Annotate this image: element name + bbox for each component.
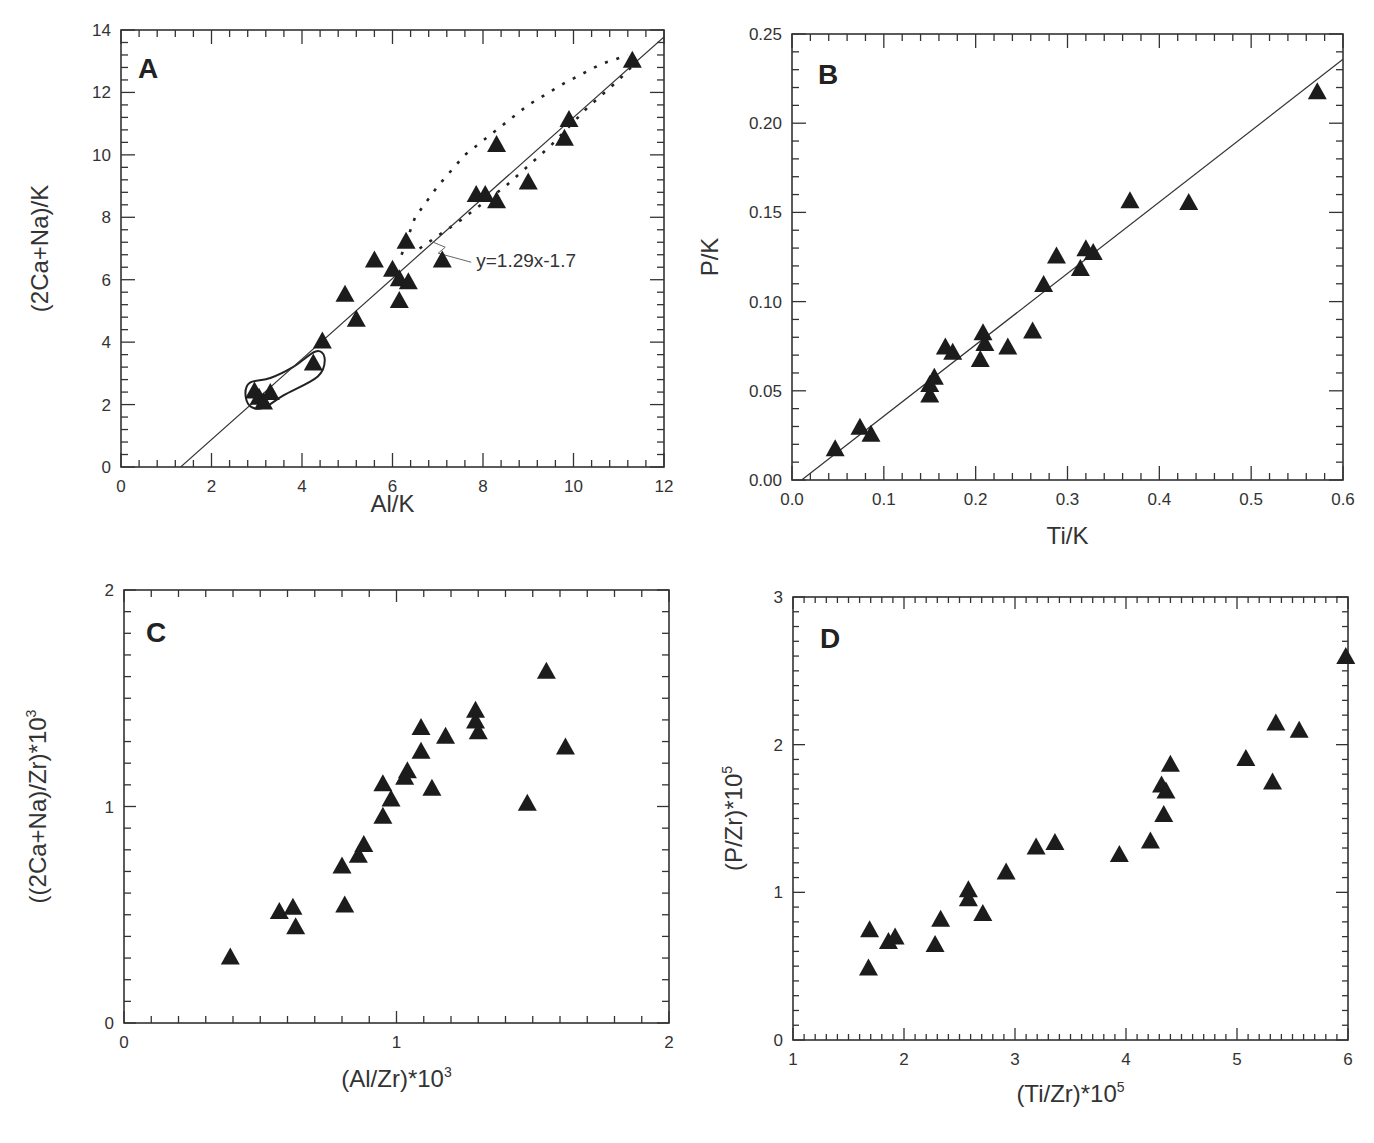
y-tick-label: 8 [102, 208, 111, 227]
y-tick-label: 2 [102, 396, 111, 415]
data-point-triangle [1290, 721, 1309, 738]
data-points [221, 662, 575, 965]
y-axis-label: (P/Zr)*105 [719, 766, 747, 871]
y-axis-label: ((2Ca+Na)/Zr)*103 [23, 709, 51, 903]
data-point-triangle [1141, 832, 1160, 849]
panel-letter: D [820, 623, 840, 654]
panel-letter: B [818, 59, 838, 90]
data-point-triangle [1236, 749, 1255, 766]
axis-ticks [792, 34, 1343, 480]
y-tick-label: 6 [102, 271, 111, 290]
x-tick-label: 0.5 [1239, 490, 1263, 509]
plot-frame [121, 30, 664, 467]
data-point-triangle [221, 948, 240, 965]
y-axis-label-exponent: 3 [23, 709, 39, 717]
y-tick-label: 2 [105, 581, 114, 600]
y-tick-label: 14 [92, 21, 111, 40]
data-point-triangle [412, 742, 431, 759]
x-tick-label: 5 [1232, 1050, 1241, 1069]
data-point-triangle [931, 910, 950, 927]
panel-a: 02468101202468101214Al/K(2Ca+Na)/KAy=1.2… [26, 21, 673, 517]
panel-letter: A [138, 53, 158, 84]
data-point-triangle [556, 738, 575, 755]
x-tick-label: 1 [788, 1050, 797, 1069]
data-point-triangle [347, 310, 366, 327]
x-tick-label: 2 [899, 1050, 908, 1069]
x-tick-label: 4 [1121, 1050, 1130, 1069]
y-tick-label: 2 [774, 736, 783, 755]
data-point-triangle [1179, 193, 1198, 210]
data-point-triangle [926, 935, 945, 952]
x-tick-label: 0.1 [872, 490, 896, 509]
y-tick-label: 0.00 [749, 471, 782, 490]
y-tick-label: 12 [92, 83, 111, 102]
data-point-triangle [1263, 773, 1282, 790]
data-point-triangle [335, 285, 354, 302]
x-tick-label: 2 [664, 1033, 673, 1052]
envelope-upper-dotted [402, 55, 628, 255]
data-point-triangle [959, 889, 978, 906]
x-tick-label: 0 [116, 477, 125, 496]
data-point-triangle [973, 904, 992, 921]
data-point-triangle [261, 383, 280, 400]
y-axis-label-text: ((2Ca+Na)/Zr)*10 [24, 717, 51, 903]
data-point-triangle [433, 250, 452, 267]
x-axis-label: (Ti/Zr)*105 [1016, 1079, 1124, 1107]
data-point-triangle [398, 761, 417, 778]
x-axis-label: (Al/Zr)*103 [341, 1064, 452, 1092]
data-point-triangle [487, 135, 506, 152]
y-axis-label: (2Ca+Na)/K [26, 185, 53, 312]
y-axis-label-exponent: 5 [719, 766, 735, 774]
regression-equation: y=1.29x-1.7 [476, 250, 576, 271]
data-point-triangle [373, 807, 392, 824]
x-tick-label: 4 [297, 477, 306, 496]
y-tick-label: 3 [774, 588, 783, 607]
regression-line [802, 59, 1343, 480]
data-point-triangle [390, 291, 409, 308]
figure: 02468101202468101214Al/K(2Ca+Na)/KAy=1.2… [0, 0, 1374, 1143]
data-point-triangle [382, 789, 401, 806]
data-point-triangle [1161, 755, 1180, 772]
x-tick-label: 2 [207, 477, 216, 496]
data-point-triangle [333, 857, 352, 874]
x-tick-label: 1 [392, 1033, 401, 1052]
x-tick-label: 8 [478, 477, 487, 496]
y-tick-label: 4 [102, 333, 111, 352]
data-point-triangle [1120, 191, 1139, 208]
y-tick-label: 10 [92, 146, 111, 165]
x-tick-label: 0.3 [1056, 490, 1080, 509]
data-point-triangle [1023, 321, 1042, 338]
data-point-triangle [1110, 845, 1129, 862]
data-point-triangle [519, 172, 538, 189]
y-tick-label: 0 [105, 1014, 114, 1033]
x-tick-label: 0.2 [964, 490, 988, 509]
data-point-triangle [971, 350, 990, 367]
x-axis-label-text: Al/K [370, 490, 414, 517]
data-point-triangle [537, 662, 556, 679]
data-point-triangle [313, 332, 332, 349]
x-tick-label: 12 [655, 477, 674, 496]
panel-b: 0.00.10.20.30.40.50.60.000.050.100.150.2… [696, 25, 1355, 549]
y-tick-label: 0.10 [749, 293, 782, 312]
data-point-triangle [1154, 805, 1173, 822]
data-point-triangle [997, 863, 1016, 880]
x-tick-label: 0.0 [780, 490, 804, 509]
plot-frame [792, 34, 1343, 480]
y-tick-label: 1 [105, 798, 114, 817]
x-tick-label: 0.4 [1148, 490, 1172, 509]
y-axis-label-text: (P/Zr)*10 [720, 774, 747, 871]
data-point-triangle [354, 835, 373, 852]
data-point-triangle [1034, 275, 1053, 292]
panel-letter: C [146, 617, 166, 648]
data-point-triangle [436, 727, 455, 744]
data-point-triangle [412, 718, 431, 735]
x-axis-label: Al/K [370, 490, 414, 517]
data-point-triangle [860, 920, 879, 937]
y-axis-label-text: P/K [696, 238, 723, 277]
x-axis-label-text: Ti/K [1047, 522, 1089, 549]
panel-c: 012012(Al/Zr)*103((2Ca+Na)/Zr)*103C [23, 581, 674, 1092]
data-points [826, 82, 1327, 456]
y-tick-label: 1 [774, 883, 783, 902]
data-point-triangle [1027, 837, 1046, 854]
data-point-triangle [1045, 833, 1064, 850]
